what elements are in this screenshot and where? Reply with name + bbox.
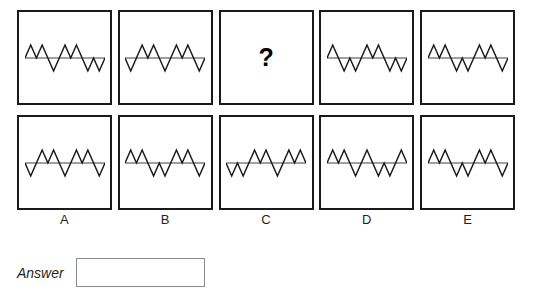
grid-row-bottom xyxy=(17,115,521,210)
option-label-d: D xyxy=(319,212,420,227)
option-box-d[interactable] xyxy=(319,115,414,210)
option-cell-bottom-row-a xyxy=(17,115,118,210)
option-grid: ? xyxy=(17,10,521,210)
option-box-a[interactable] xyxy=(17,115,112,210)
option-label-e: E xyxy=(420,212,521,227)
answer-strip: Answer xyxy=(17,258,205,287)
option-cell-top-row-b xyxy=(118,10,219,105)
option-box-e[interactable] xyxy=(420,115,515,210)
option-label-b: B xyxy=(118,212,219,227)
answer-input[interactable] xyxy=(76,258,205,287)
waveform-graphic xyxy=(125,143,205,183)
question-box[interactable]: ? xyxy=(219,10,314,105)
option-cell-top-row-a xyxy=(17,10,118,105)
waveform-graphic xyxy=(428,143,508,183)
option-cell-bottom-row-c xyxy=(219,115,320,210)
option-label-a: A xyxy=(17,212,118,227)
option-box-b[interactable] xyxy=(118,10,213,105)
option-label-c: C xyxy=(219,212,320,227)
row-spacer xyxy=(17,105,521,115)
option-box-e[interactable] xyxy=(420,10,515,105)
option-cell-bottom-row-e xyxy=(420,115,521,210)
waveform-graphic xyxy=(125,38,205,78)
option-box-d[interactable] xyxy=(319,10,414,105)
answer-label: Answer xyxy=(17,265,64,281)
grid-row-top: ? xyxy=(17,10,521,105)
option-labels: ABCDE xyxy=(17,212,521,227)
option-cell-bottom-row-b xyxy=(118,115,219,210)
waveform-graphic xyxy=(428,38,508,78)
waveform-graphic xyxy=(327,143,407,183)
option-cell-top-row-d xyxy=(319,10,420,105)
option-box-b[interactable] xyxy=(118,115,213,210)
puzzle-root: ? ABCDE Answer xyxy=(0,0,539,299)
waveform-graphic xyxy=(25,38,105,78)
waveform-graphic xyxy=(327,38,407,78)
option-cell-top-row-c: ? xyxy=(219,10,320,105)
waveform-graphic xyxy=(226,143,306,183)
question-mark: ? xyxy=(258,45,273,70)
option-box-c[interactable] xyxy=(219,115,314,210)
option-cell-top-row-e xyxy=(420,10,521,105)
option-box-a[interactable] xyxy=(17,10,112,105)
option-cell-bottom-row-d xyxy=(319,115,420,210)
waveform-graphic xyxy=(25,143,105,183)
